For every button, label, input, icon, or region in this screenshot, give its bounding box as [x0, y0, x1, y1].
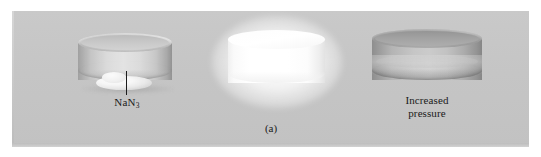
- cylinder-a-top-rim: [78, 33, 172, 52]
- figure-root: NaN3 Increased pressure (a): [0, 0, 541, 157]
- cylinder-c-top-inner-surface: [375, 31, 479, 46]
- cylinder-c-bottom-arc: [372, 61, 482, 80]
- cylinder-c-top-rim: [372, 29, 482, 48]
- increased-pressure-line-1: Increased: [387, 94, 467, 107]
- cylinder-b-bottom-arc: [228, 64, 325, 83]
- pressurized-gray-cylinder: [372, 29, 482, 89]
- sodium-azide-formula-base: NaN: [114, 96, 135, 108]
- sodium-azide-label: NaN3: [97, 96, 157, 108]
- cylinder-a-top-inner-surface: [81, 35, 169, 50]
- sodium-azide-powder-mound: [102, 72, 126, 83]
- panel-left-edge: [12, 11, 14, 147]
- increased-pressure-label: Increased pressure: [387, 94, 467, 120]
- sodium-azide-formula-subscript: 3: [136, 101, 140, 110]
- glowing-white-cylinder: [228, 30, 325, 92]
- cylinder-b-top-rim: [228, 30, 325, 49]
- panel-bottom-edge: [12, 143, 529, 147]
- figure-caption: (a): [241, 122, 301, 134]
- increased-pressure-line-2: pressure: [387, 107, 467, 120]
- sodium-azide-leader-line: [126, 71, 127, 95]
- translucent-cylinder-with-sodium-azide: [78, 33, 172, 89]
